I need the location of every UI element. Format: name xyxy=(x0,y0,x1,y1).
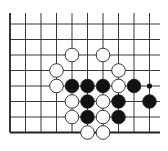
black-stone xyxy=(81,79,95,93)
white-stone xyxy=(112,79,126,93)
black-stone xyxy=(143,95,157,109)
black-stone xyxy=(127,79,141,93)
black-stone xyxy=(112,110,126,124)
marker-dot xyxy=(147,83,152,88)
white-stone xyxy=(50,79,64,93)
black-stone xyxy=(81,95,95,109)
white-stone xyxy=(96,48,110,62)
white-stone xyxy=(50,64,64,78)
white-stone xyxy=(65,110,79,124)
go-board xyxy=(0,0,168,151)
black-stone xyxy=(65,79,79,93)
white-stone xyxy=(112,64,126,78)
white-stone xyxy=(96,110,110,124)
white-stone xyxy=(96,126,110,140)
black-stone xyxy=(96,79,110,93)
white-stone xyxy=(81,126,95,140)
black-stone xyxy=(112,95,126,109)
black-stone xyxy=(81,110,95,124)
markers-layer xyxy=(147,83,152,88)
white-stone xyxy=(65,48,79,62)
white-stone xyxy=(96,95,110,109)
white-stone xyxy=(65,95,79,109)
